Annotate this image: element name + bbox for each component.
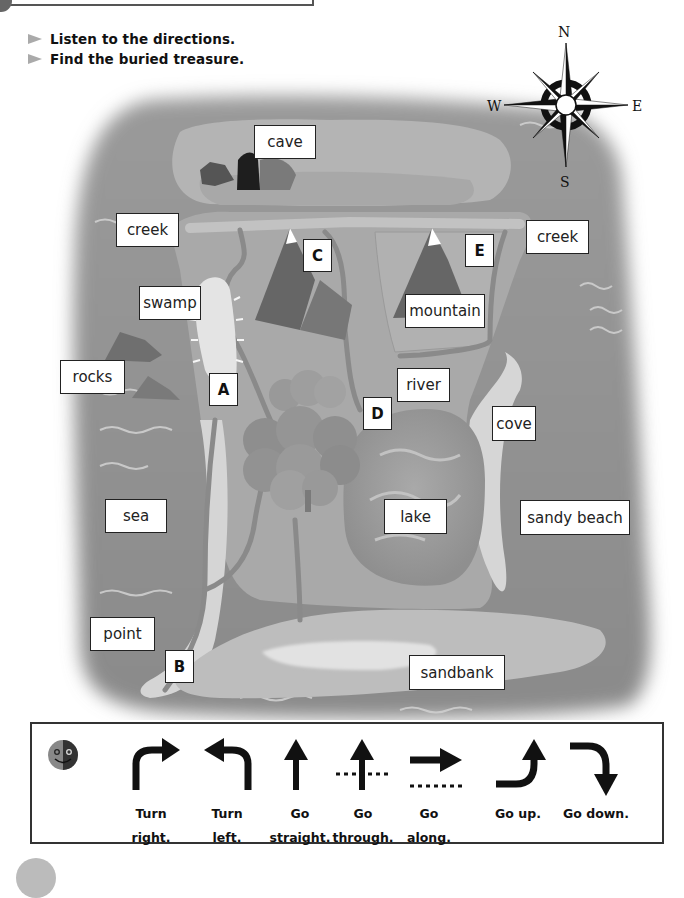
legend-go-straight: Gostraight. <box>268 802 332 850</box>
label-cove: cove <box>492 406 536 441</box>
label-sandy-beach: sandy beach <box>520 500 630 535</box>
legend-go-up: Go up. <box>488 802 548 826</box>
legend-text: through. <box>330 826 396 850</box>
label-point: point <box>90 617 155 651</box>
label-swamp: swamp <box>139 286 201 320</box>
compass-north: N <box>558 24 570 40</box>
label-cave: cave <box>254 125 316 159</box>
legend-text: Go up. <box>488 802 548 826</box>
label-creek-right: creek <box>526 220 589 254</box>
straight-arrow-icon <box>281 736 311 792</box>
turn-right-arrow-icon <box>128 736 188 792</box>
label-lake: lake <box>384 499 447 534</box>
legend-turn-right: Turnright. <box>122 802 180 850</box>
legend-text: Go down. <box>558 802 634 826</box>
legend-text: straight. <box>268 826 332 850</box>
marker-b: B <box>165 650 194 683</box>
compass-south: S <box>560 174 570 190</box>
turn-left-arrow-icon <box>198 736 258 792</box>
speaker-face-icon[interactable] <box>46 738 80 772</box>
legend-text: Go <box>330 802 396 826</box>
label-rocks: rocks <box>60 360 125 394</box>
legend-text: Turn <box>204 802 250 826</box>
marker-e: E <box>465 234 494 267</box>
label-sea: sea <box>105 499 167 533</box>
legend-text: Turn <box>122 802 180 826</box>
up-arrow-icon <box>494 736 550 792</box>
marker-c: C <box>303 239 332 272</box>
compass-west: W <box>487 98 501 114</box>
legend-go-along: Goalong. <box>402 802 456 850</box>
legend-turn-left: Turnleft. <box>204 802 250 850</box>
lake-shape <box>343 409 485 586</box>
marker-d: D <box>363 397 392 430</box>
label-river: river <box>397 368 450 402</box>
legend-go-down: Go down. <box>558 802 634 826</box>
directions-legend: Turnright. Turnleft. Gostraight. Gothrou… <box>30 722 664 844</box>
marker-a: A <box>209 373 238 406</box>
cave-land <box>172 119 511 205</box>
along-arrow-icon <box>406 746 466 790</box>
label-mountain: mountain <box>405 294 485 328</box>
legend-text: along. <box>402 826 456 850</box>
legend-text: Go <box>268 802 332 826</box>
legend-text: left. <box>204 826 250 850</box>
down-arrow-icon <box>568 736 624 802</box>
label-creek-left: creek <box>116 213 179 247</box>
legend-text: Go <box>402 802 456 826</box>
legend-text: right. <box>122 826 180 850</box>
label-sandbank: sandbank <box>409 655 505 690</box>
compass-east: E <box>632 98 642 114</box>
legend-go-through: Gothrough. <box>330 802 396 850</box>
page-corner-decoration <box>16 858 56 898</box>
through-arrow-icon <box>332 736 392 792</box>
